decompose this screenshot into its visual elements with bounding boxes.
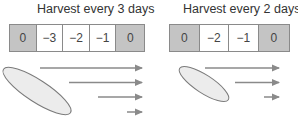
diagram-art bbox=[0, 0, 298, 122]
ellipse-leaf-icon bbox=[0, 60, 77, 122]
